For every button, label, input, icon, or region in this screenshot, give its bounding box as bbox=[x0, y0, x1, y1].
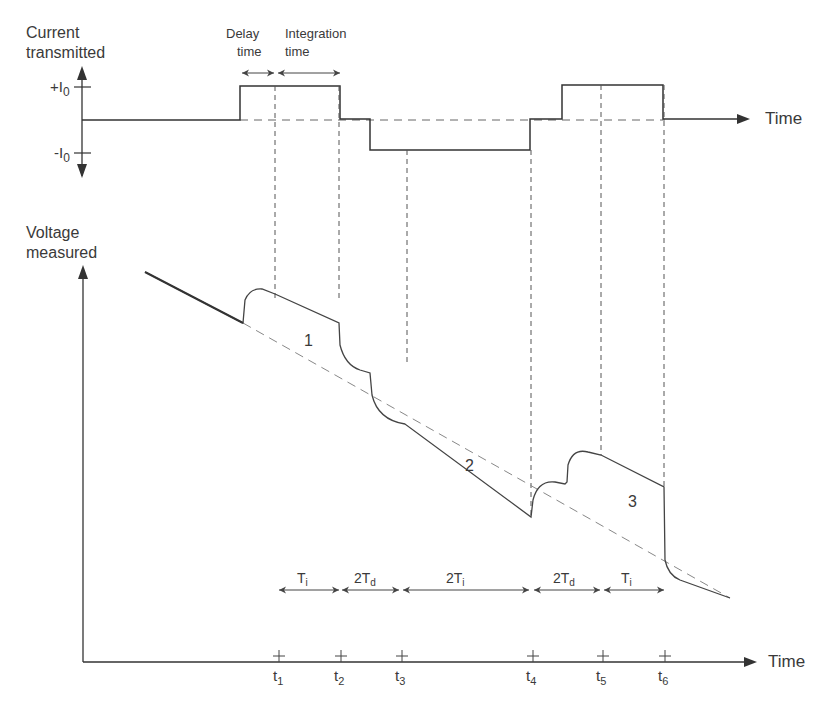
interval-label-2: 2Td bbox=[354, 570, 376, 588]
time-axis-arrow-icon bbox=[737, 114, 750, 124]
voltage-axis-label-1: Voltage bbox=[26, 224, 79, 241]
bottom-time-axis-arrow-icon bbox=[744, 657, 757, 667]
tick-t4: t4 bbox=[526, 667, 536, 687]
current-panel: Current transmitted +I0 -I0 Time Delay t… bbox=[26, 24, 802, 178]
current-waveform bbox=[82, 85, 740, 150]
tick-t5: t5 bbox=[596, 667, 606, 687]
drift-trend-line bbox=[243, 323, 730, 598]
tick-t2: t2 bbox=[334, 667, 344, 687]
current-axis-down-arrow-icon bbox=[77, 164, 87, 178]
tick-t6: t6 bbox=[658, 667, 668, 687]
minus-i0-label: -I0 bbox=[54, 144, 70, 165]
voltage-waveform bbox=[145, 272, 730, 598]
interval-label-3: 2Ti bbox=[446, 570, 465, 588]
region-1-label: 1 bbox=[304, 332, 313, 349]
interval-label-4: 2Td bbox=[553, 570, 575, 588]
region-2-label: 2 bbox=[465, 457, 474, 474]
bottom-time-label: Time bbox=[768, 652, 805, 671]
current-axis-label-2: transmitted bbox=[26, 44, 105, 61]
time-ticks bbox=[273, 650, 671, 662]
voltage-panel: Voltage measured Time 1 2 3 Ti 2Td 2Ti 2… bbox=[26, 224, 805, 687]
tick-t1: t1 bbox=[273, 667, 283, 687]
interval-label-1: Ti bbox=[297, 570, 308, 588]
timing-diagram: Current transmitted +I0 -I0 Time Delay t… bbox=[0, 0, 828, 711]
tick-t3: t3 bbox=[395, 667, 405, 687]
top-time-label: Time bbox=[765, 109, 802, 128]
current-axis-label-1: Current bbox=[26, 24, 80, 41]
integration-label-2: time bbox=[285, 44, 310, 59]
interval-label-5: Ti bbox=[621, 570, 632, 588]
plus-i0-label: +I0 bbox=[50, 78, 70, 99]
region-3-label: 3 bbox=[628, 493, 637, 510]
delay-label-2: time bbox=[237, 44, 262, 59]
integration-label-1: Integration bbox=[285, 26, 346, 41]
voltage-axis-arrow-icon bbox=[78, 265, 88, 279]
delay-label-1: Delay bbox=[226, 26, 260, 41]
voltage-axis-label-2: measured bbox=[26, 244, 97, 261]
current-axis-up-arrow-icon bbox=[77, 66, 87, 80]
